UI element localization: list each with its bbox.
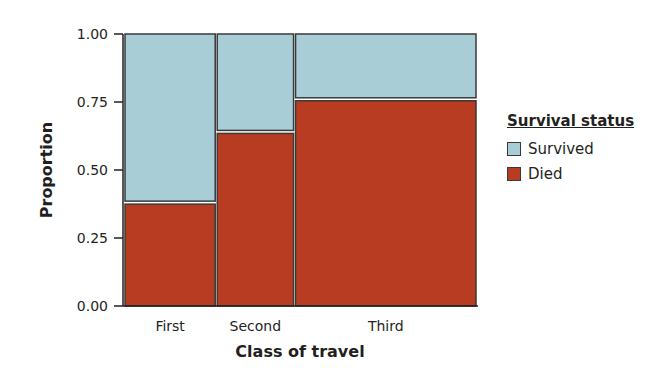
x-tick-label-first: First [155,318,185,334]
bar-died-first [125,204,215,306]
x-tick-label-second: Second [230,318,282,334]
y-tick-label: 1.00 [77,26,108,42]
y-tick-label: 0.00 [77,298,108,314]
legend-item-died: Died [507,161,634,186]
bar-survived-third [296,34,476,98]
mosaic-chart: 0.000.250.500.751.00 FirstSecondThird Cl… [0,0,662,374]
bar-survived-second [217,34,293,130]
y-tick-label: 0.25 [77,230,108,246]
x-tick-label-third: Third [367,318,404,334]
died-swatch-icon [507,167,521,181]
x-ticks: FirstSecondThird [155,318,403,334]
x-axis-title: Class of travel [235,342,364,361]
bar-died-third [296,101,476,306]
legend-title: Survival status [507,112,634,130]
legend: Survival status Survived Died [507,112,634,186]
y-tick-label: 0.50 [77,162,108,178]
legend-label-survived: Survived [528,140,594,158]
bar-died-second [217,133,293,306]
y-axis-title: Proportion [37,122,56,218]
survived-swatch-icon [507,142,521,156]
mosaic-bars [125,34,476,306]
y-tick-label: 0.75 [77,94,108,110]
legend-item-survived: Survived [507,136,634,161]
bar-survived-first [125,34,215,201]
legend-label-died: Died [528,165,562,183]
y-ticks: 0.000.250.500.751.00 [77,26,123,314]
